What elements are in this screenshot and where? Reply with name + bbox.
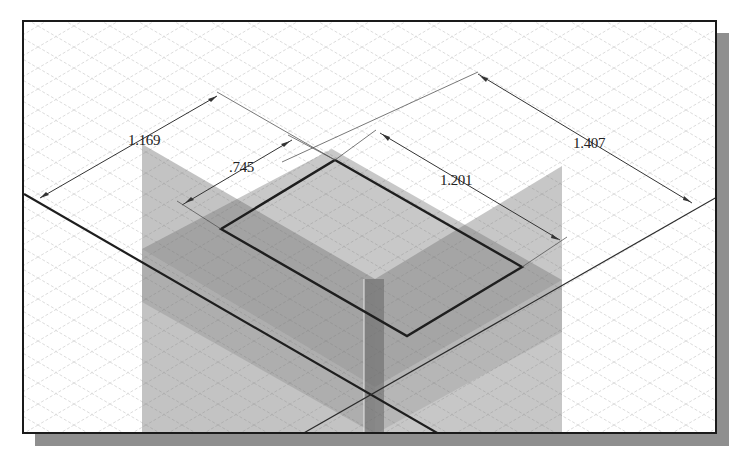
dimension-label-1201[interactable]: 1.201: [440, 172, 472, 189]
sketch-canvas[interactable]: [24, 22, 715, 432]
dimension-label-1169[interactable]: 1.169: [128, 132, 160, 149]
graphics-viewport[interactable]: 1.169 .745 1.201 1.407: [22, 20, 717, 434]
dimension-label-745[interactable]: .745: [229, 159, 254, 176]
dimension-label-1407[interactable]: 1.407: [573, 135, 605, 152]
z-axis-bar: [364, 279, 384, 432]
